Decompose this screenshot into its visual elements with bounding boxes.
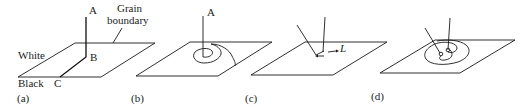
label-A: A <box>89 4 97 16</box>
panel-label-c: (c) <box>245 92 258 105</box>
panel-label-b: (b) <box>131 92 144 105</box>
dislocation-line-right-d <box>448 18 450 50</box>
label-L: L <box>339 42 346 54</box>
spiral-core-left <box>439 52 443 56</box>
dislocation-grain-boundary-figure: A B C White Black Grain boundary (a) A (… <box>0 0 532 110</box>
double-spiral-trace-d <box>425 40 469 64</box>
panel-label-d: (d) <box>371 90 384 103</box>
label-white: White <box>18 49 45 61</box>
panel-d: (d) <box>371 18 515 103</box>
panel-a: A B C White Black Grain boundary (a) <box>17 2 155 105</box>
dislocation-line-left-c <box>297 25 324 55</box>
dimension-arrow-upper <box>328 51 336 52</box>
grain-boundary-plane-d <box>380 40 515 73</box>
grain-boundary-plane-b <box>136 42 272 76</box>
label-B: B <box>90 51 97 63</box>
panel-b: A (b) <box>131 6 272 105</box>
grain-boundary-plane-c <box>251 42 387 75</box>
label-A-b: A <box>207 6 215 18</box>
label-boundary: boundary <box>107 14 149 26</box>
panel-c: L (c) <box>245 17 387 105</box>
dislocation-line-right-c <box>323 17 325 52</box>
spiral-trace-b <box>194 44 236 66</box>
arrowhead-upper-icon <box>336 50 339 53</box>
dislocation-line-abc <box>60 17 86 77</box>
grain-boundary-leader <box>113 28 122 43</box>
label-grain: Grain <box>117 2 143 14</box>
label-C: C <box>54 77 61 89</box>
label-black: Black <box>18 77 44 89</box>
panel-label-a: (a) <box>17 92 30 105</box>
